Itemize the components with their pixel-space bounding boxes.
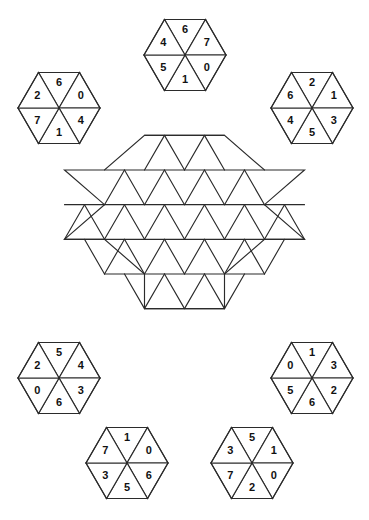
tile-digit-lower-right: 0 [271,469,277,481]
tile-digit-bottom: 2 [249,481,255,493]
hexagon-tile[interactable]: 510273 [211,427,293,498]
tile-digit-lower-left: 7 [34,114,40,126]
tile-digit-lower-right: 2 [331,384,337,396]
tile-digit-top: 6 [56,76,62,88]
tile-digit-bottom: 5 [124,481,130,493]
hexagon-tile[interactable]: 604172 [18,72,100,143]
tile-digit-upper-right: 0 [146,444,152,456]
tile-digit-upper-right: 3 [331,359,337,371]
tile-digit-top: 2 [309,76,315,88]
tile-digit-bottom: 6 [309,396,315,408]
hexagon-tile[interactable]: 670154 [144,19,226,90]
hexagon-tile[interactable]: 132650 [271,342,353,413]
tile-digit-bottom: 5 [309,126,315,138]
tile-digit-upper-right: 0 [78,89,84,101]
tile-digit-top: 5 [56,346,62,358]
tile-digit-upper-right: 1 [271,444,277,456]
tile-digit-lower-left: 5 [287,384,293,396]
tile-digit-upper-left: 2 [34,89,40,101]
tile-digit-lower-left: 3 [102,469,108,481]
tile-digit-bottom: 1 [56,126,62,138]
tile-digit-lower-right: 4 [78,114,85,126]
tile-digit-lower-right: 6 [146,469,152,481]
tile-digit-upper-left: 7 [102,444,108,456]
tile-digit-lower-right: 3 [331,114,337,126]
tile-digit-bottom: 6 [56,396,62,408]
tile-digit-upper-left: 6 [287,89,293,101]
tile-digit-top: 1 [309,346,315,358]
hexagon-tile[interactable]: 543602 [18,342,100,413]
tile-digit-lower-left: 0 [34,384,40,396]
hexagon-tile[interactable]: 213546 [271,72,353,143]
tile-digit-top: 5 [249,431,255,443]
tile-digit-bottom: 1 [182,73,188,85]
tile-digit-lower-left: 4 [287,114,294,126]
tile-digit-lower-left: 5 [160,61,166,73]
tile-digit-lower-right: 0 [204,61,210,73]
tile-digit-upper-left: 3 [227,444,233,456]
tile-digit-upper-left: 4 [160,36,167,48]
tile-digit-upper-left: 0 [287,359,293,371]
hexagon-tiles: 6701546041722135465436021326501065375102… [18,19,353,498]
star-board[interactable] [65,135,305,308]
tile-digit-upper-left: 2 [34,359,40,371]
tile-digit-upper-right: 4 [78,359,85,371]
tile-digit-top: 6 [182,23,188,35]
tile-digit-upper-right: 1 [331,89,337,101]
tile-digit-upper-right: 7 [204,36,210,48]
puzzle-canvas: 6701546041722135465436021326501065375102… [0,0,369,520]
hexagon-tile[interactable]: 106537 [86,427,168,498]
tile-digit-top: 1 [124,431,130,443]
tile-digit-lower-right: 3 [78,384,84,396]
tile-digit-lower-left: 7 [227,469,233,481]
